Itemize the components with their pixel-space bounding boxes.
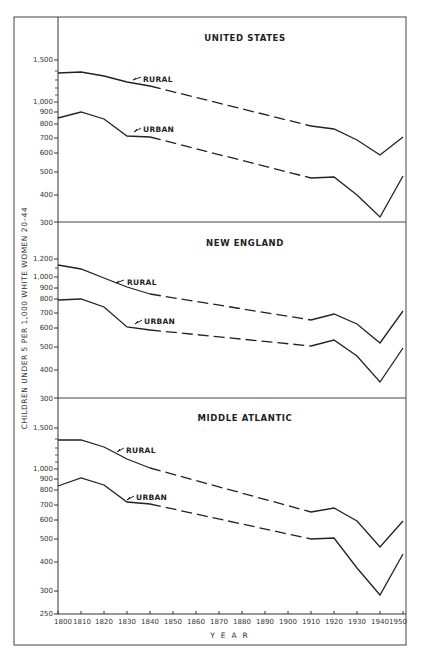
fertility-ratio-chart: UNITED STATES NEW ENGLAND MIDDLE ATLANTI… [0, 0, 424, 648]
x-tick: 1940 [371, 611, 389, 626]
y-tick: 1,000 [33, 273, 58, 281]
us-rural-pointer-icon [133, 77, 141, 80]
y-tick-label: 600 [40, 149, 53, 157]
us-y-ticks: 1,500 1,000 900 800 700 600 500 400 300 [33, 56, 58, 227]
us-urban-series [58, 112, 403, 217]
y-tick-label: 400 [40, 366, 53, 374]
ma-urban-pointer-icon [127, 496, 134, 500]
y-tick-label: 700 [40, 501, 53, 509]
y-tick-label: 800 [40, 120, 53, 128]
x-tick-label: 1830 [118, 618, 136, 626]
ma-rural-series [58, 440, 403, 547]
y-tick: 300 [40, 219, 58, 227]
y-tick-label: 900 [40, 108, 53, 116]
x-tick: 1850 [164, 611, 182, 626]
ne-urban-pointer-icon [135, 320, 142, 324]
y-tick-label: 1,000 [33, 465, 53, 473]
y-tick-label: 1,500 [33, 424, 53, 432]
y-axis-title: CHILDREN UNDER 5 PER 1,000 WHITE WOMEN 2… [20, 207, 29, 429]
x-tick-label: 1920 [325, 618, 343, 626]
ma-rural-label: RURAL [126, 446, 156, 455]
ne-urban-label: URBAN [144, 317, 175, 326]
y-tick-label: 400 [40, 558, 53, 566]
y-tick-label: 300 [40, 395, 53, 403]
x-tick: 1920 [325, 611, 343, 626]
y-tick: 900 [40, 108, 58, 116]
ma-urban-label: URBAN [136, 493, 167, 502]
y-tick-label: 250 [40, 610, 53, 618]
y-tick: 800 [40, 295, 58, 303]
ma-rural-pointer-icon [117, 448, 124, 452]
x-tick-label: 1900 [279, 618, 297, 626]
us-rural-label: RURAL [143, 75, 173, 84]
y-tick: 900 [40, 475, 58, 483]
x-tick: 1840 [141, 611, 159, 626]
ne-urban-series [58, 299, 403, 382]
y-tick: 700 [40, 501, 58, 509]
y-tick: 500 [40, 535, 58, 543]
y-tick-label: 500 [40, 535, 53, 543]
x-tick: 1870 [210, 611, 228, 626]
y-tick-label: 600 [40, 516, 53, 524]
y-tick-label: 300 [40, 219, 53, 227]
x-tick-label: 1870 [210, 618, 228, 626]
y-tick: 700 [40, 309, 58, 317]
y-tick: 400 [40, 366, 58, 374]
x-tick-label: 1820 [95, 618, 113, 626]
us-urban-pointer-icon [134, 128, 141, 132]
x-tick-label: 1930 [348, 618, 366, 626]
y-tick-label: 300 [40, 587, 53, 595]
y-tick-label: 1,200 [33, 255, 53, 263]
y-tick: 1,500 [33, 56, 58, 64]
y-tick: 1,500 [33, 424, 58, 432]
x-tick-label: 1840 [141, 618, 159, 626]
y-tick: 1,000 [33, 465, 58, 473]
y-tick: 300 [40, 587, 58, 595]
ne-rural-series [58, 265, 403, 343]
y-tick-label: 700 [40, 134, 53, 142]
x-tick-label: 1890 [256, 618, 274, 626]
x-tick: 1910 [302, 611, 320, 626]
y-tick: 400 [40, 191, 58, 199]
x-tick: 1900 [279, 611, 297, 626]
ne-rural-label: RURAL [127, 278, 157, 287]
y-tick: 500 [40, 343, 58, 351]
x-tick: 1810 [73, 611, 91, 626]
x-tick: 1890 [256, 611, 274, 626]
ma-y-ticks: 1,500 1,000 900 800 700 600 500 400 300 … [33, 424, 58, 618]
us-urban-label: URBAN [143, 125, 174, 134]
y-tick-label: 1,000 [33, 98, 53, 106]
y-tick-label: 400 [40, 191, 53, 199]
y-tick-label: 600 [40, 324, 53, 332]
panel-title-middle-atlantic: MIDDLE ATLANTIC [198, 413, 293, 423]
x-tick-label: 1860 [187, 618, 205, 626]
y-tick-label: 700 [40, 309, 53, 317]
panel-title-new-england: NEW ENGLAND [206, 238, 284, 248]
x-tick-label: 1810 [73, 618, 91, 626]
y-tick-label: 800 [40, 486, 53, 494]
y-tick: 700 [40, 134, 58, 142]
y-tick: 600 [40, 149, 58, 157]
x-tick-label: 1850 [164, 618, 182, 626]
y-tick: 600 [40, 324, 58, 332]
y-tick-label: 1,000 [33, 273, 53, 281]
ma-urban-series [58, 478, 403, 595]
x-tick: 1860 [187, 611, 205, 626]
y-tick: 1,000 [33, 98, 58, 106]
y-tick: 900 [40, 284, 58, 292]
y-tick-label: 500 [40, 168, 53, 176]
y-tick-label: 900 [40, 475, 53, 483]
y-tick: 800 [40, 486, 58, 494]
x-tick: 1830 [118, 611, 136, 626]
panel-title-united-states: UNITED STATES [204, 33, 286, 43]
outer-frame [14, 17, 406, 645]
y-tick: 500 [40, 168, 58, 176]
us-rural-series [58, 72, 403, 155]
x-ticks: 1800 1810 1820 1830 1840 1850 1860 1870 … [54, 611, 407, 626]
y-tick-label: 800 [40, 295, 53, 303]
ne-rural-pointer-icon [116, 280, 124, 283]
x-tick-label: 1800 [54, 618, 72, 626]
x-tick-label: 1940 [371, 618, 389, 626]
y-tick: 600 [40, 516, 58, 524]
x-tick-label: 1910 [302, 618, 320, 626]
